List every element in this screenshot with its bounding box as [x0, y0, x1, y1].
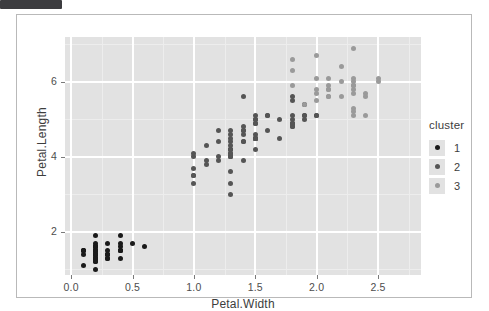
data-point: [191, 166, 196, 171]
x-tick-label: 1.5: [235, 281, 275, 293]
legend-item-2[interactable]: 2: [429, 157, 489, 176]
x-tick-mark: [255, 275, 256, 279]
data-point: [204, 143, 209, 148]
x-tick-label: 1.0: [174, 281, 214, 293]
legend-point-icon: [435, 183, 440, 188]
data-point: [253, 147, 258, 152]
plot-panel: [65, 37, 421, 275]
data-point: [204, 162, 209, 167]
x-tick-mark: [71, 275, 72, 279]
legend-key-swatch: [429, 159, 445, 175]
data-point: [228, 151, 233, 156]
legend-point-icon: [435, 145, 440, 150]
legend-item-3[interactable]: 3: [429, 176, 489, 195]
data-point: [241, 94, 246, 99]
x-tick-mark: [133, 275, 134, 279]
y-tick-label: 2: [27, 225, 57, 237]
data-point: [290, 68, 295, 73]
legend-item-1[interactable]: 1: [429, 138, 489, 157]
gridline-minor-horizontal: [65, 44, 421, 45]
data-point: [241, 158, 246, 163]
data-point: [118, 233, 123, 238]
data-point: [105, 252, 110, 257]
x-axis-label: Petal.Width: [65, 297, 421, 311]
data-point: [191, 173, 196, 178]
legend-title: cluster: [429, 119, 489, 131]
data-point: [93, 233, 98, 238]
x-tick-mark: [378, 275, 379, 279]
data-point: [277, 136, 282, 141]
data-point: [241, 132, 246, 137]
data-point: [216, 128, 221, 133]
data-point: [363, 113, 368, 118]
legend: cluster 123: [429, 119, 489, 195]
data-point: [290, 121, 295, 126]
data-point: [351, 46, 356, 51]
x-tick-label: 2.5: [358, 281, 398, 293]
y-tick-mark: [61, 232, 65, 233]
y-axis-label: Petal.Length: [35, 82, 49, 202]
data-point: [290, 57, 295, 62]
data-point: [290, 83, 295, 88]
data-point: [253, 117, 258, 122]
data-point: [228, 192, 233, 197]
legend-key-swatch: [429, 140, 445, 156]
legend-items: 123: [429, 138, 489, 195]
data-point: [314, 113, 319, 118]
gridline-minor-horizontal: [65, 119, 421, 120]
data-point: [241, 139, 246, 144]
data-point: [302, 117, 307, 122]
data-point: [290, 98, 295, 103]
plot-frame: Petal.Width Petal.Length cluster 123 0.0…: [16, 14, 472, 298]
gridline-minor-horizontal: [65, 269, 421, 270]
legend-item-label: 3: [454, 180, 460, 192]
data-point: [142, 244, 147, 249]
x-tick-label: 2.0: [297, 281, 337, 293]
data-point: [339, 64, 344, 69]
data-point: [118, 256, 123, 261]
data-point: [265, 113, 270, 118]
data-point: [191, 181, 196, 186]
legend-point-icon: [435, 164, 440, 169]
data-point: [216, 139, 221, 144]
legend-item-label: 2: [454, 161, 460, 173]
data-point: [118, 248, 123, 253]
gridline-minor-horizontal: [65, 194, 421, 195]
y-tick-label: 4: [27, 150, 57, 162]
legend-key-swatch: [429, 178, 445, 194]
data-point: [339, 79, 344, 84]
data-point: [228, 181, 233, 186]
data-point: [314, 76, 319, 81]
data-point: [326, 76, 331, 81]
x-tick-mark: [194, 275, 195, 279]
data-point: [376, 76, 381, 81]
data-point: [130, 241, 135, 246]
x-tick-label: 0.5: [113, 281, 153, 293]
data-point: [326, 94, 331, 99]
legend-item-label: 1: [454, 142, 460, 154]
x-tick-label: 0.0: [51, 281, 91, 293]
y-tick-mark: [61, 82, 65, 83]
data-point: [351, 87, 356, 92]
data-point: [265, 128, 270, 133]
data-point: [93, 267, 98, 272]
data-point: [228, 169, 233, 174]
window-title-bar: [0, 0, 62, 9]
data-point: [105, 241, 110, 246]
data-point: [302, 102, 307, 107]
y-tick-mark: [61, 157, 65, 158]
data-point: [277, 117, 282, 122]
gridline-major-horizontal: [65, 81, 421, 83]
y-tick-label: 6: [27, 75, 57, 87]
data-point: [363, 94, 368, 99]
x-tick-mark: [317, 275, 318, 279]
data-point: [253, 136, 258, 141]
data-point: [314, 53, 319, 58]
data-point: [339, 94, 344, 99]
data-point: [314, 98, 319, 103]
data-point: [81, 263, 86, 268]
